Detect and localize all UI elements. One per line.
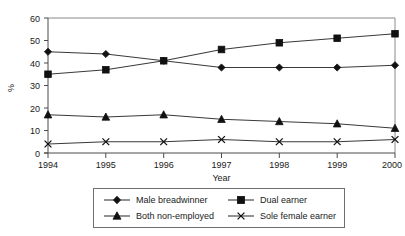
y-tick-label-40: 40 [30, 59, 40, 69]
diamond-marker [44, 48, 51, 55]
x-axis-ticks [48, 153, 395, 158]
square-marker [160, 57, 167, 64]
diamond-marker [102, 50, 109, 57]
diamond-marker [334, 64, 341, 71]
x-tick-label-1999: 1999 [327, 160, 347, 170]
x-tick-label-1997: 1997 [211, 160, 231, 170]
legend-label-dual-earner: Dual earner [260, 195, 307, 205]
series-both-non-employed [44, 111, 399, 132]
square-marker [276, 39, 283, 46]
x-tick-label-2000: 2000 [382, 160, 402, 170]
square-marker [392, 30, 399, 37]
y-axis-ticks [44, 18, 48, 153]
line-chart: 60 50 40 30 20 10 0 % 1994 1995 1996 199… [0, 0, 405, 236]
legend: Male breadwinner Dual earner Both non-em… [94, 189, 345, 228]
x-tick-label-1995: 1995 [96, 160, 116, 170]
diamond-marker [391, 62, 398, 69]
square-marker [45, 71, 52, 78]
x-tick-label-1994: 1994 [38, 160, 58, 170]
x-axis-title: Year [212, 173, 230, 183]
y-tick-label-50: 50 [30, 36, 40, 46]
square-marker [334, 35, 341, 42]
diamond-marker [276, 64, 283, 71]
y-tick-label-30: 30 [30, 81, 40, 91]
x-tick-label-1998: 1998 [269, 160, 289, 170]
y-axis-title: % [6, 84, 16, 92]
diamond-marker-icon [113, 196, 120, 204]
legend-label-male-breadwinner: Male breadwinner [136, 195, 208, 205]
legend-label-sole-female-earner: Sole female earner [260, 211, 336, 221]
legend-entry-male-breadwinner: Male breadwinner [104, 195, 208, 205]
y-tick-label-10: 10 [30, 126, 40, 136]
legend-entry-dual-earner: Dual earner [228, 195, 307, 205]
x-tick-label-1996: 1996 [154, 160, 174, 170]
y-tick-label-60: 60 [30, 14, 40, 24]
y-tick-label-20: 20 [30, 104, 40, 114]
y-tick-label-0: 0 [35, 149, 40, 159]
legend-entry-sole-female-earner: Sole female earner [228, 211, 336, 221]
chart-container: 60 50 40 30 20 10 0 % 1994 1995 1996 199… [0, 0, 405, 236]
square-marker-icon [237, 196, 244, 203]
x-axis-labels: 1994 1995 1996 1997 1998 1999 2000 [38, 160, 402, 170]
diamond-marker [218, 64, 225, 71]
legend-label-both-non-employed: Both non-employed [136, 211, 214, 221]
y-axis-labels: 60 50 40 30 20 10 0 [30, 14, 40, 159]
series-sole-female-earner [45, 136, 399, 147]
square-marker [218, 46, 225, 53]
square-marker [103, 66, 110, 73]
series-layer [44, 30, 399, 147]
legend-entry-both-non-employed: Both non-employed [104, 211, 214, 221]
